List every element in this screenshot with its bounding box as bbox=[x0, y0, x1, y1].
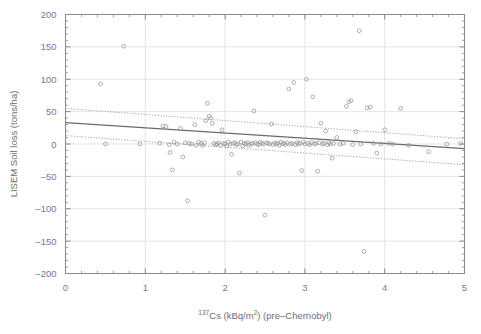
y-tick-label: –100 bbox=[35, 203, 56, 214]
data-point bbox=[186, 199, 190, 203]
data-point bbox=[330, 156, 334, 160]
data-point bbox=[335, 136, 339, 140]
y-tick-label: 150 bbox=[41, 41, 57, 52]
data-point bbox=[399, 106, 403, 110]
data-point bbox=[158, 141, 162, 145]
data-point bbox=[220, 128, 224, 132]
data-point bbox=[375, 151, 379, 155]
confidence-band-upper bbox=[66, 108, 465, 138]
data-point bbox=[357, 29, 361, 33]
data-point bbox=[168, 151, 172, 155]
scatter-plot: –200–150–100–50050100150200012345LISEM S… bbox=[0, 0, 481, 334]
x-axis-title: 137Cs (kBq/m2) (pre–Chernobyl) bbox=[198, 309, 332, 321]
x-tick-label: 0 bbox=[63, 282, 68, 293]
data-point bbox=[181, 155, 185, 159]
y-axis-title: LISEM Soil loss (tons/ha) bbox=[8, 91, 19, 198]
data-point-group bbox=[99, 29, 463, 254]
data-point bbox=[287, 87, 291, 91]
data-point bbox=[193, 123, 197, 127]
data-point bbox=[230, 152, 234, 156]
y-tick-label: 50 bbox=[46, 106, 57, 117]
data-point bbox=[316, 169, 320, 173]
y-tick-label: –50 bbox=[41, 171, 57, 182]
y-tick-label: 200 bbox=[41, 9, 57, 20]
data-point bbox=[252, 109, 256, 113]
data-point bbox=[99, 82, 103, 86]
data-point bbox=[171, 168, 175, 172]
data-point bbox=[300, 169, 304, 173]
data-point bbox=[427, 150, 431, 154]
x-tick-label: 4 bbox=[382, 282, 387, 293]
data-point bbox=[459, 141, 463, 145]
data-point bbox=[210, 121, 214, 125]
data-point bbox=[311, 95, 315, 99]
data-point bbox=[263, 213, 267, 217]
x-tick-label: 2 bbox=[222, 282, 227, 293]
data-point bbox=[122, 44, 126, 48]
data-point bbox=[324, 129, 328, 133]
data-point bbox=[292, 81, 296, 85]
y-tick-label: 0 bbox=[51, 139, 56, 150]
x-tick-label: 3 bbox=[302, 282, 307, 293]
x-tick-label: 5 bbox=[462, 282, 467, 293]
data-point bbox=[351, 143, 355, 147]
data-point bbox=[344, 105, 348, 109]
data-point bbox=[238, 171, 242, 175]
x-tick-label: 1 bbox=[143, 282, 148, 293]
y-tick-label: –200 bbox=[35, 268, 56, 279]
y-tick-label: –150 bbox=[35, 236, 56, 247]
data-point bbox=[362, 250, 366, 254]
data-point bbox=[319, 121, 323, 125]
y-tick-label: 100 bbox=[41, 74, 57, 85]
data-point bbox=[206, 101, 210, 105]
confidence-band-lower bbox=[66, 136, 465, 165]
figure-container: –200–150–100–50050100150200012345LISEM S… bbox=[0, 0, 481, 334]
